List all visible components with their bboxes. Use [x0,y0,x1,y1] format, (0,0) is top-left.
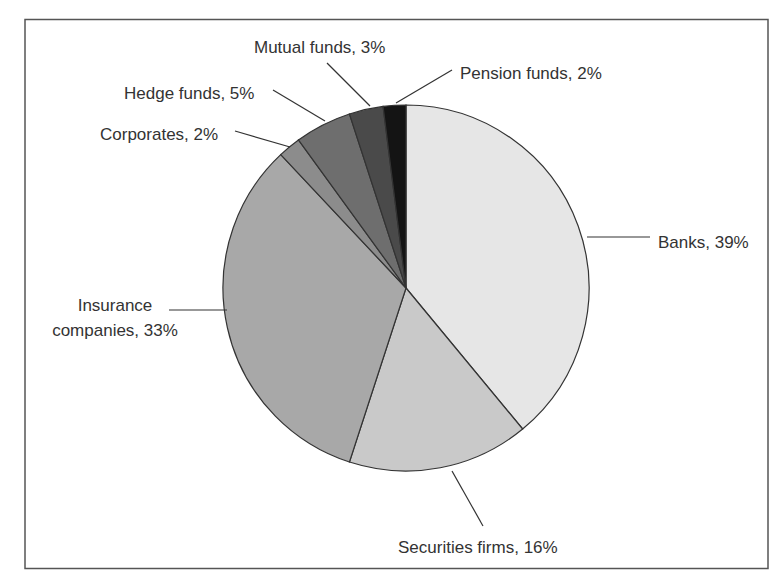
label-corporates: Corporates, 2% [100,125,218,144]
label-banks: Banks, 39% [658,233,749,252]
label-insurance-line2: companies, 33% [52,321,178,340]
label-mutual-funds: Mutual funds, 3% [254,38,385,57]
label-insurance-line1: Insurance [78,296,153,315]
pie-chart: Banks, 39% Securities firms, 16% Insuran… [0,0,782,583]
pie-slices [223,105,589,471]
label-securities-firms: Securities firms, 16% [398,538,558,557]
label-hedge-funds: Hedge funds, 5% [124,84,254,103]
label-pension-funds: Pension funds, 2% [460,64,602,83]
